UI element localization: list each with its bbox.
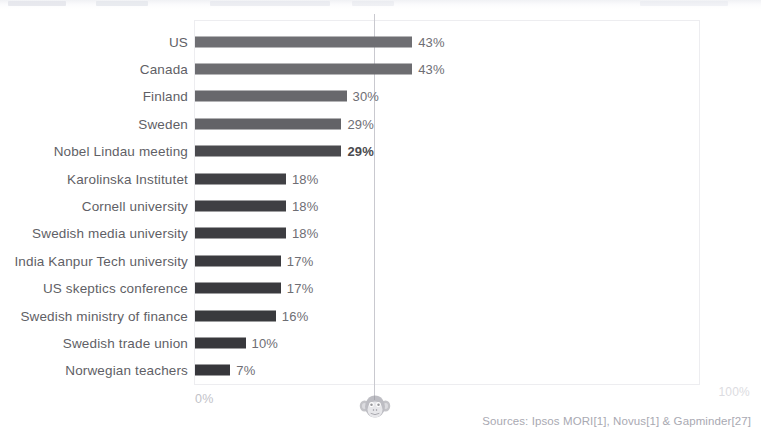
chart-page: US43%Canada43%Finland30%Sweden29%Nobel L… xyxy=(0,0,761,437)
header-smudge xyxy=(96,1,148,6)
bar-value-label: 29% xyxy=(347,116,374,131)
bar-category-label: US xyxy=(169,34,188,49)
bar-category-label: Cornell university xyxy=(82,199,188,214)
bar xyxy=(195,283,281,294)
bar xyxy=(195,36,412,47)
bar xyxy=(195,146,341,157)
bar-value-label: 16% xyxy=(282,308,309,323)
bar-row: Swedish trade union10% xyxy=(0,329,761,356)
bar-value-label: 17% xyxy=(287,253,314,268)
bar-row: US43% xyxy=(0,28,761,55)
bar-row: Norwegian teachers7% xyxy=(0,357,761,384)
bar-category-label: Sweden xyxy=(138,116,188,131)
bar xyxy=(195,64,412,75)
bar-row: Swedish media university18% xyxy=(0,220,761,247)
bar-value-label: 43% xyxy=(418,34,445,49)
bar-row: Nobel Lindau meeting29% xyxy=(0,138,761,165)
source-note: Sources: Ipsos MORI[1], Novus[1] & Gapmi… xyxy=(482,415,751,427)
bar xyxy=(195,365,230,376)
chimpanzee-icon xyxy=(359,394,391,420)
bar-category-label: Karolinska Institutet xyxy=(67,171,188,186)
bar-row: US skeptics conference17% xyxy=(0,275,761,302)
bar xyxy=(195,173,286,184)
bar-value-label: 7% xyxy=(236,363,255,378)
bar xyxy=(195,228,286,239)
bar-value-label: 17% xyxy=(287,281,314,296)
bar-row: Sweden29% xyxy=(0,110,761,137)
bar-category-label: Nobel Lindau meeting xyxy=(54,144,188,159)
bar xyxy=(195,91,347,102)
bar-category-label: Canada xyxy=(140,62,188,77)
bar-value-label: 10% xyxy=(252,335,279,350)
axis-tick-max: 100% xyxy=(719,385,751,399)
header-smudge xyxy=(210,1,330,6)
bar-value-label: 43% xyxy=(418,62,445,77)
bar-rows: US43%Canada43%Finland30%Sweden29%Nobel L… xyxy=(0,28,761,384)
axis-tick-zero: 0% xyxy=(195,392,213,406)
bar-row: Karolinska Institutet18% xyxy=(0,165,761,192)
bar-row: Cornell university18% xyxy=(0,192,761,219)
bar xyxy=(195,255,281,266)
bar xyxy=(195,201,286,212)
header-smudge xyxy=(352,1,394,6)
bar-category-label: Finland xyxy=(143,89,188,104)
header-smudge xyxy=(640,1,728,6)
bar-category-label: US skeptics conference xyxy=(43,281,188,296)
bar xyxy=(195,118,341,129)
bar-row: Swedish ministry of finance16% xyxy=(0,302,761,329)
bar-value-label: 18% xyxy=(292,171,319,186)
bar-row: India Kanpur Tech university17% xyxy=(0,247,761,274)
bar-category-label: Swedish media university xyxy=(32,226,188,241)
bar-category-label: Swedish trade union xyxy=(63,335,188,350)
bar xyxy=(195,337,246,348)
header-smudge xyxy=(8,1,66,6)
bar-value-label: 30% xyxy=(353,89,380,104)
bar-value-label: 18% xyxy=(292,226,319,241)
bar-row: Finland30% xyxy=(0,83,761,110)
bar-row: Canada43% xyxy=(0,55,761,82)
bar-category-label: India Kanpur Tech university xyxy=(14,253,188,268)
cropped-header-remnant xyxy=(0,0,761,9)
bar-value-label: 29% xyxy=(347,144,374,159)
bar xyxy=(195,310,276,321)
bar-value-label: 18% xyxy=(292,199,319,214)
bar-category-label: Norwegian teachers xyxy=(65,363,188,378)
bar-category-label: Swedish ministry of finance xyxy=(20,308,188,323)
